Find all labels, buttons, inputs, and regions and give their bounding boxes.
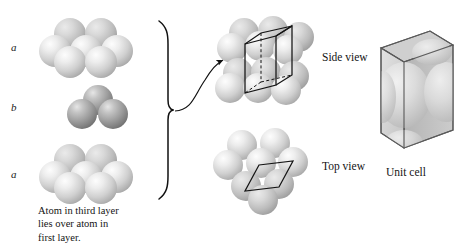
layer-a-top-cluster (39, 18, 133, 78)
caption-line-1: Atom in third layer (38, 204, 119, 217)
top-view-label: Top view (322, 161, 365, 173)
layer-label-a-top: a (11, 42, 17, 53)
unit-cell-label: Unit cell (386, 167, 426, 179)
side-view-label: Side view (322, 52, 368, 64)
stacking-caption: Atom in third layer lies over atom in fi… (38, 204, 119, 244)
top-view-cluster (213, 128, 308, 215)
unit-cell-box (370, 31, 468, 156)
figure-hcp-stacking: a b a Side view Top view Unit cell Atom … (0, 0, 471, 244)
layer-a-bottom-cluster (39, 144, 133, 204)
layer-label-a-bottom: a (11, 169, 17, 180)
caption-line-2: lies over atom in (38, 217, 119, 230)
side-view-cluster (215, 16, 314, 105)
caption-line-3: first layer. (38, 231, 119, 244)
grouping-brace (159, 21, 173, 199)
layer-b-middle-cluster (67, 85, 128, 129)
layer-label-b-middle: b (11, 102, 17, 113)
